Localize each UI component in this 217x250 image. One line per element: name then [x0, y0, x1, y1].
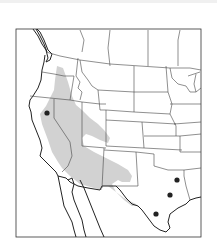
- occurrence-point-south-texas: [153, 211, 158, 216]
- occurrence-point-east-texas-central: [167, 192, 172, 197]
- range-map: [0, 0, 217, 250]
- distribution-range: [40, 66, 138, 206]
- occurrence-point-california: [44, 110, 49, 115]
- occurrence-point-east-texas-north: [174, 177, 179, 182]
- map-frame: [16, 29, 201, 237]
